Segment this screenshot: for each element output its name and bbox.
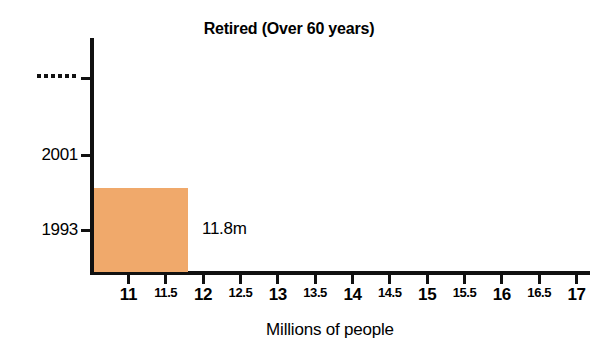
y-axis-label-1993: 1993 (0, 220, 78, 240)
x-axis-tick-16.5 (538, 273, 541, 284)
x-axis-label-14: 14 (343, 285, 361, 305)
x-axis-title-text: Millions of people (266, 320, 394, 340)
x-axis-tick-11 (127, 273, 130, 284)
chart-title: Retired (Over 60 years) (0, 20, 606, 38)
x-axis-label-12: 12 (194, 285, 212, 305)
x-axis-tick-17 (575, 273, 578, 284)
x-axis-label-11: 11 (120, 285, 137, 305)
x-axis-tick-15 (426, 273, 429, 284)
y-axis-label-1993-text: 1993 (8, 220, 78, 240)
x-axis-tick-12.5 (239, 273, 242, 284)
x-axis-tick-15.5 (463, 273, 466, 284)
x-axis-tick-14.5 (388, 273, 391, 284)
bar-value-label-1993: 11.8m (202, 219, 247, 239)
x-axis-label-13: 13 (269, 285, 287, 305)
y-axis-tick-ellipsis (81, 77, 91, 80)
x-axis-label-11.5: 11.5 (154, 285, 177, 300)
x-axis-tick-13.5 (314, 273, 317, 284)
x-axis-tick-12 (202, 273, 205, 284)
y-axis-label-2001-text: 2001 (8, 145, 78, 165)
x-axis-label-14.5: 14.5 (378, 285, 402, 300)
y-axis-label-ellipsis (0, 68, 78, 88)
x-axis-label-17: 17 (567, 285, 585, 305)
x-axis-title: Millions of people (0, 320, 606, 340)
x-axis-label-15: 15 (418, 285, 436, 305)
x-axis-tick-16 (500, 273, 503, 284)
x-axis-tick-13 (276, 273, 279, 284)
x-axis-label-15.5: 15.5 (453, 285, 477, 300)
x-axis-label-16: 16 (493, 285, 511, 305)
x-axis-label-13.5: 13.5 (303, 285, 327, 300)
y-axis-tick-2001 (81, 154, 91, 157)
chart-figure: Retired (Over 60 years) 2001 1993 11.8m … (0, 0, 606, 357)
y-axis-tick-1993 (81, 229, 91, 232)
chart-title-text: Retired (Over 60 years) (204, 20, 375, 38)
bar-1993 (94, 188, 188, 272)
ellipsis-dots-icon (37, 74, 76, 78)
x-axis-label-16.5: 16.5 (527, 285, 551, 300)
y-axis-label-2001: 2001 (0, 145, 78, 165)
x-axis-tick-14 (351, 273, 354, 284)
x-axis-label-12.5: 12.5 (229, 285, 253, 300)
x-axis-tick-11.5 (164, 273, 167, 284)
